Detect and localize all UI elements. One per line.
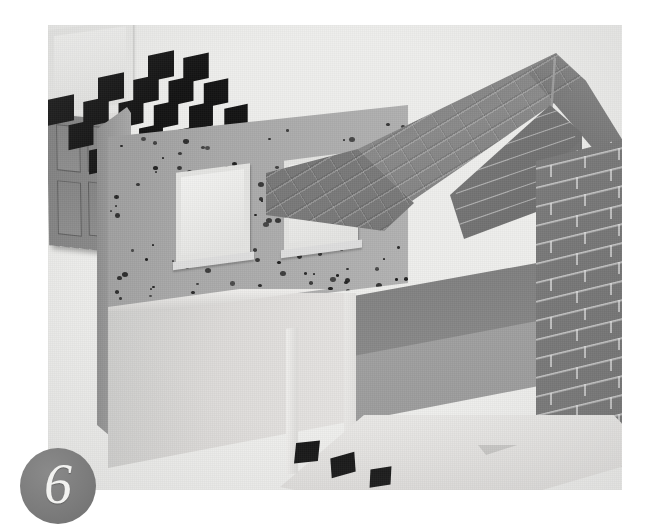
floor-tile <box>69 120 94 150</box>
loose-tile <box>370 466 392 488</box>
photograph-plate <box>48 25 622 490</box>
interior-floor <box>280 415 622 490</box>
upper-window-left <box>176 163 250 263</box>
loose-tile <box>294 441 320 464</box>
page-number: 6 <box>20 448 96 524</box>
door-panel <box>57 180 82 237</box>
window-glass <box>181 169 244 255</box>
page-number-badge: 6 <box>20 448 96 524</box>
floor-tile <box>48 94 74 126</box>
